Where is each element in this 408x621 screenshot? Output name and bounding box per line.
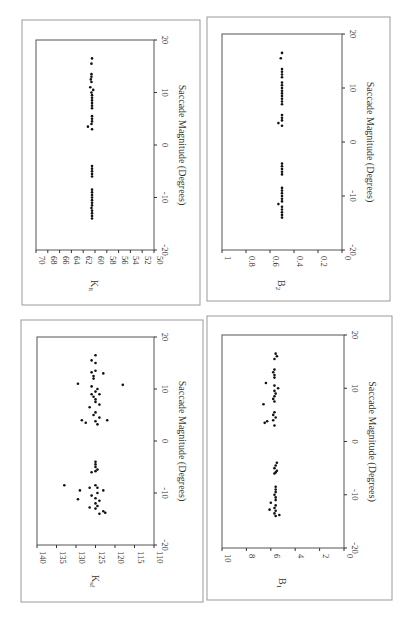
- data-point: [91, 99, 94, 102]
- value-tick-label: 66: [61, 256, 71, 265]
- plot-area: [37, 337, 154, 545]
- value-tick-label: 135: [58, 551, 68, 564]
- value-tick-label: 120: [116, 551, 126, 564]
- data-point: [90, 494, 93, 497]
- data-point: [91, 167, 94, 170]
- panel-k_lt: 7068666462605856545250-20-1001020Saccade…: [22, 20, 200, 305]
- saccade-tick-label: 0: [160, 439, 170, 443]
- data-point: [281, 95, 284, 98]
- value-tick-label: 6: [272, 554, 282, 558]
- data-point: [94, 484, 97, 487]
- data-point: [91, 217, 94, 220]
- data-point: [273, 384, 276, 387]
- saccade-tick-label: -10: [348, 190, 358, 201]
- data-point: [90, 471, 93, 474]
- value-tick-label: 2: [321, 554, 331, 558]
- data-point: [280, 57, 283, 60]
- saccade-tick-label: 20: [348, 30, 358, 39]
- value-tick-label: 58: [108, 256, 118, 265]
- data-point: [94, 354, 97, 357]
- data-point: [272, 398, 275, 401]
- data-point: [281, 114, 284, 117]
- y-axis-label: Klt: [87, 280, 100, 291]
- data-point: [98, 513, 101, 516]
- data-point: [91, 199, 94, 202]
- data-point: [281, 84, 284, 87]
- data-point: [281, 89, 284, 92]
- data-point: [94, 507, 97, 510]
- data-point: [281, 189, 284, 192]
- data-point: [281, 76, 284, 79]
- value-tick-label: 140: [38, 551, 48, 564]
- saccade-tick-label: -10: [160, 487, 170, 498]
- panel-b1: 1086420-20-1001020Saccade Magnitude (Deg…: [207, 316, 392, 600]
- data-point: [91, 115, 94, 118]
- saccade-tick-label: -20: [160, 244, 170, 255]
- data-point: [91, 120, 94, 123]
- data-point: [277, 203, 280, 206]
- data-point: [281, 162, 284, 165]
- x-axis-label: Saccade Magnitude (Degrees): [176, 85, 188, 206]
- data-point: [281, 71, 284, 74]
- data-point: [96, 492, 99, 495]
- saccade-tick-label: 10: [160, 385, 170, 394]
- data-point: [281, 119, 284, 122]
- data-point: [274, 416, 277, 419]
- data-point: [274, 499, 277, 502]
- value-tick-label: 50: [155, 256, 165, 265]
- data-point: [281, 208, 284, 211]
- data-point: [91, 102, 94, 105]
- data-point: [281, 165, 284, 168]
- data-point: [91, 128, 94, 131]
- data-point: [281, 211, 284, 214]
- data-point: [281, 173, 284, 176]
- plot-area: [36, 40, 154, 250]
- data-point: [94, 401, 97, 404]
- data-point: [91, 117, 94, 120]
- data-point: [87, 125, 90, 128]
- data-point: [281, 73, 284, 76]
- data-point: [91, 209, 94, 212]
- panel-b2: 10.80.60.40.20-20-1001020Saccade Magnitu…: [207, 17, 390, 301]
- y-axis-label: B1: [275, 578, 288, 589]
- value-tick-label: 125: [97, 551, 107, 564]
- data-point: [281, 192, 284, 195]
- data-point: [96, 505, 99, 508]
- data-point: [274, 504, 277, 507]
- data-point: [92, 414, 95, 417]
- data-point: [272, 414, 275, 417]
- data-point: [281, 87, 284, 90]
- data-point: [90, 393, 93, 396]
- data-point: [281, 68, 284, 71]
- data-point: [273, 493, 276, 496]
- saccade-tick-label: 0: [350, 439, 360, 443]
- data-point: [94, 398, 97, 401]
- value-tick-label: 0.8: [247, 256, 257, 267]
- y-axis-label: B2: [274, 280, 287, 291]
- data-point: [91, 94, 94, 97]
- data-point: [281, 187, 284, 190]
- data-point: [98, 500, 101, 503]
- data-point: [273, 467, 276, 470]
- data-point: [91, 212, 94, 215]
- data-point: [102, 489, 105, 492]
- data-point: [88, 487, 91, 490]
- saccade-tick-label: -10: [160, 192, 170, 203]
- value-tick-label: 52: [143, 256, 153, 265]
- x-axis-label: Saccade Magnitude (Degrees): [364, 82, 376, 203]
- data-point: [91, 170, 94, 173]
- data-point: [91, 173, 94, 176]
- data-point: [96, 487, 99, 490]
- data-point: [84, 422, 87, 425]
- value-tick-label: 1: [223, 256, 233, 260]
- data-point: [268, 508, 271, 511]
- saccade-tick-label: -10: [350, 489, 360, 500]
- value-tick-label: 60: [96, 256, 106, 265]
- data-point: [90, 123, 93, 126]
- data-point: [274, 515, 277, 518]
- data-point: [273, 400, 276, 403]
- data-point: [272, 371, 275, 374]
- data-point: [79, 489, 82, 492]
- data-point: [274, 464, 277, 467]
- data-point: [91, 165, 94, 168]
